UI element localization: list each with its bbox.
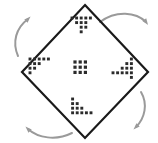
motif-dot [112, 71, 115, 74]
motif-dot [71, 107, 74, 110]
motif-dot [33, 67, 36, 70]
motif-dot [90, 111, 93, 114]
motif-dot [33, 58, 36, 61]
motif-dot [130, 71, 133, 74]
center-dot [84, 66, 87, 69]
motif-dot [125, 62, 128, 65]
motif-right [112, 58, 133, 79]
motif-dot [85, 111, 88, 114]
motif-dot [71, 98, 74, 101]
motif-dot [84, 17, 87, 20]
motif-dot [76, 102, 79, 105]
motif-dot [29, 67, 32, 70]
center-dot [84, 60, 87, 63]
motif-dot [130, 58, 133, 61]
motif-dot [38, 62, 41, 65]
motif-dot [76, 111, 79, 114]
arrow-bottom-left-shaft [28, 129, 72, 138]
dot-motifs-group [29, 17, 133, 115]
motif-dot [125, 67, 128, 70]
center-dot [79, 60, 82, 63]
motif-dot [80, 17, 83, 20]
motif-dot [116, 71, 119, 74]
motif-dot [125, 71, 128, 74]
motif-dot [84, 26, 87, 29]
motif-dot [80, 111, 83, 114]
motif-dot [71, 17, 74, 20]
motif-dot [130, 76, 133, 79]
center-dot [73, 60, 76, 63]
arrow-bottom-right [133, 92, 144, 130]
figure-canvas [0, 0, 158, 143]
motif-dot [75, 17, 78, 20]
center-dot [84, 71, 87, 74]
motif-dot [29, 71, 32, 74]
motif-dot [76, 107, 79, 110]
motif-dot [71, 102, 74, 105]
center-dot [79, 66, 82, 69]
rotational-symmetry-figure [0, 0, 158, 143]
motif-dot [47, 58, 50, 61]
arrow-top-right-shaft [100, 14, 146, 22]
motif-dot [84, 21, 87, 24]
arrow-bottom-left [25, 126, 72, 137]
motif-dot [121, 67, 124, 70]
motif-dot [29, 62, 32, 65]
motif-dot [42, 58, 45, 61]
motif-dot [130, 67, 133, 70]
motif-dot [71, 111, 74, 114]
center-dot [79, 71, 82, 74]
motif-dot [29, 58, 32, 61]
arrow-top-left-shaft [15, 19, 28, 56]
motif-dot [80, 107, 83, 110]
motif-dot [80, 21, 83, 24]
motif-dot [89, 17, 92, 20]
motif-dot [130, 62, 133, 65]
motif-dot [38, 58, 41, 61]
arrow-top-right [100, 14, 148, 25]
arrow-top-left [15, 16, 30, 56]
motif-dot [80, 26, 83, 29]
center-dot [73, 71, 76, 74]
motif-dot [121, 71, 124, 74]
motif-dot [80, 30, 83, 33]
arrow-bottom-right-shaft [136, 92, 145, 127]
motif-dot [75, 21, 78, 24]
motif-top [71, 17, 92, 34]
motif-dot [33, 62, 36, 65]
center-dot-block [73, 60, 87, 74]
center-dot [73, 66, 76, 69]
motif-bottom [71, 98, 92, 115]
